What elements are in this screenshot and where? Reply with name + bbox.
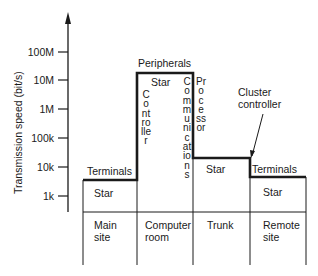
column-main-line2: site [94, 231, 110, 243]
topology-remote: Star [263, 186, 282, 198]
topology-main: Star [94, 187, 113, 199]
annotation-line1: Cluster [238, 86, 271, 98]
column-remote-line2: site [263, 231, 279, 243]
topology-computer-room: Star [151, 76, 170, 88]
tick-100k: 100k [10, 132, 54, 144]
tick-1M: 1M [10, 103, 54, 115]
tick-1k: 1k [10, 190, 54, 202]
tick-10k: 10k [10, 161, 54, 173]
label-communications: Communications [182, 77, 192, 179]
column-computer-line2: room [145, 231, 169, 243]
label-terminals-remote: Terminals [252, 163, 297, 175]
label-controller: Controller [141, 90, 151, 146]
label-peripherals: Peripherals [138, 57, 191, 69]
column-remote-line1: Remote [263, 219, 300, 231]
topology-trunk: Star [206, 163, 225, 175]
label-processor: Processor [196, 77, 206, 133]
tick-10M: 10M [10, 74, 54, 86]
column-computer-line1: Computer [145, 219, 191, 231]
tick-100M: 100M [10, 46, 54, 58]
column-trunk: Trunk [207, 219, 233, 231]
annotation-line2: controller [238, 98, 281, 110]
label-terminals-main: Terminals [87, 165, 132, 177]
column-main-line1: Main [94, 219, 117, 231]
